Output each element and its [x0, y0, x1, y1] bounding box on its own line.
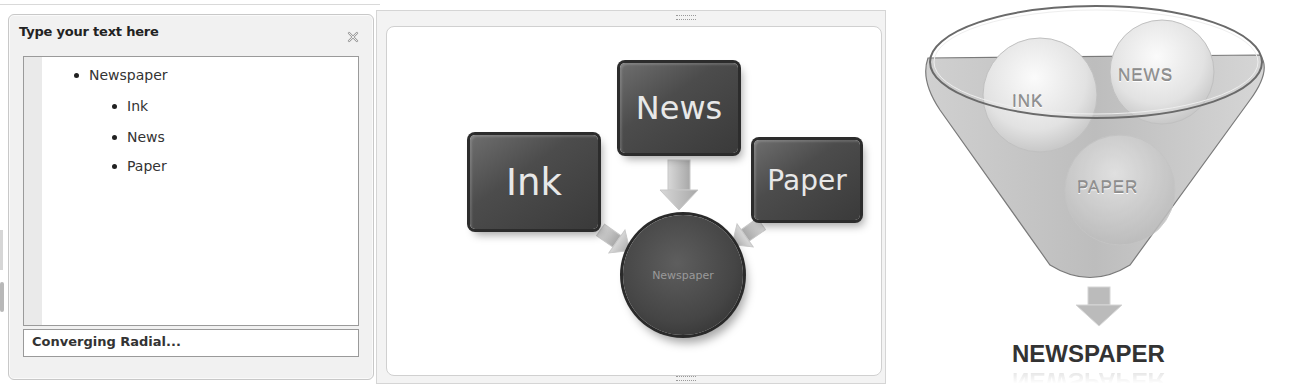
smartart-node-paper[interactable]: Paper: [754, 140, 860, 220]
arrow-down-icon: [660, 160, 698, 210]
node-label: Paper: [767, 164, 846, 197]
smartart-node-ink[interactable]: Ink: [470, 135, 598, 229]
node-label: Ink: [506, 161, 562, 204]
smartart-node-newspaper[interactable]: Newspaper: [623, 215, 743, 335]
funnel-ball-paper: PAPER: [1077, 178, 1138, 198]
funnel-output-label: NEWSPAPER: [1012, 340, 1165, 368]
node-label: Newspaper: [652, 269, 714, 282]
funnel-output-reflection: NEWSPAPER: [1012, 367, 1165, 391]
funnel-ball-ink: INK: [1012, 92, 1043, 112]
smartart-node-news[interactable]: News: [620, 63, 738, 153]
node-label: News: [636, 89, 722, 127]
funnel-ball-news: NEWS: [1118, 66, 1173, 86]
